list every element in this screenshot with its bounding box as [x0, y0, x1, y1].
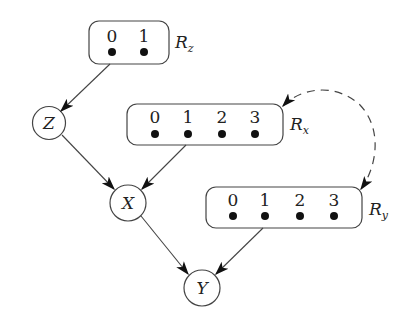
rx-dot-0 — [151, 130, 159, 138]
rx-label: Rx — [289, 114, 310, 137]
rz-dot-1 — [140, 48, 148, 56]
rx-dot-1 — [184, 130, 192, 138]
ry-value-2: 2 — [295, 190, 306, 210]
ry-label: Ry — [368, 199, 389, 222]
rz-dot-0 — [108, 48, 116, 56]
edge-ry-to-y — [216, 228, 263, 274]
response-box-rx: 0 1 2 3 Rx — [127, 104, 310, 145]
node-z: Z — [33, 107, 66, 140]
edge-x-to-y — [141, 216, 188, 274]
edge-z-to-x — [62, 135, 114, 189]
ry-dot-3 — [330, 212, 338, 220]
node-z-label: Z — [42, 113, 56, 133]
node-x-label: X — [120, 193, 135, 213]
edge-rx-ry-dashed — [283, 90, 375, 189]
node-y-label: Y — [196, 278, 209, 298]
ry-value-0: 0 — [228, 190, 239, 210]
node-x: X — [110, 185, 146, 221]
edge-rx-to-x — [142, 145, 186, 189]
rx-dot-2 — [218, 130, 226, 138]
rx-value-1: 1 — [183, 107, 194, 127]
causal-graph: 0 1 Rz 0 1 2 3 Rx 0 1 2 3 — [0, 0, 417, 327]
diagram-canvas: 0 1 Rz 0 1 2 3 Rx 0 1 2 3 — [0, 0, 417, 327]
ry-dot-2 — [296, 212, 304, 220]
ry-value-1: 1 — [260, 190, 271, 210]
ry-value-3: 3 — [329, 190, 340, 210]
rx-value-2: 2 — [217, 107, 228, 127]
rx-value-0: 0 — [150, 107, 161, 127]
response-box-rz: 0 1 Rz — [89, 21, 194, 64]
rx-dot-3 — [251, 130, 259, 138]
node-y: Y — [184, 270, 220, 306]
rz-value-0: 0 — [107, 26, 118, 46]
rz-value-1: 1 — [139, 26, 150, 46]
rz-label: Rz — [174, 32, 194, 55]
rx-value-3: 3 — [250, 107, 261, 127]
response-box-ry: 0 1 2 3 Ry — [206, 187, 389, 228]
edge-rz-to-z — [61, 64, 110, 111]
ry-dot-0 — [229, 212, 237, 220]
ry-dot-1 — [261, 212, 269, 220]
